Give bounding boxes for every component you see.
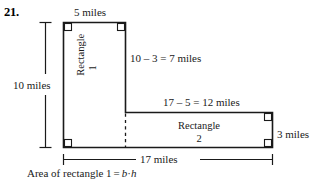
region-label-rectangle-2: Rectangle 2 <box>163 119 235 145</box>
label-bottom-width: 17 miles <box>140 153 178 166</box>
label-left-height: 10 miles <box>13 79 51 92</box>
worked-example-figure: 21. 5 miles 10 miles 10 – 3 = 7 miles 17… <box>0 0 319 182</box>
region-label-rectangle-1-word: Rectangle <box>75 60 87 76</box>
region-label-rectangle-1: Rectangle 1 <box>75 60 99 76</box>
area-formula-height: h <box>131 167 137 179</box>
area-formula-equals: = <box>112 167 122 179</box>
region-label-rectangle-2-word: Rectangle <box>163 119 235 132</box>
label-top-width: 5 miles <box>74 6 106 19</box>
label-middle-width: 17 – 5 = 12 miles <box>163 96 240 109</box>
area-formula: Area of rectangle 1=b·h <box>27 167 136 179</box>
region-label-rectangle-2-number: 2 <box>163 132 235 145</box>
label-small-height: 3 miles <box>277 128 309 141</box>
region-label-rectangle-1-number: 1 <box>87 60 99 76</box>
area-formula-lead: Area of rectangle 1 <box>27 167 112 179</box>
label-right-height: 10 – 3 = 7 miles <box>130 52 201 65</box>
